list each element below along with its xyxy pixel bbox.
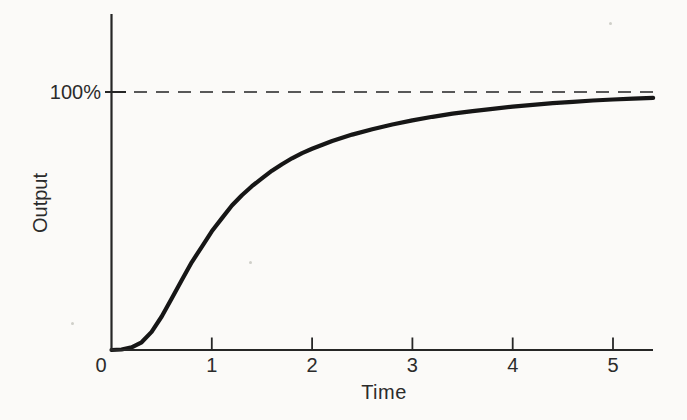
x-tick-label-0: 0 [95, 354, 106, 376]
chart-svg: 012345 100% Output Time [0, 0, 687, 420]
x-tick-label-3: 3 [407, 354, 418, 376]
x-tick-label-2: 2 [307, 354, 318, 376]
x-tick-label-1: 1 [206, 354, 217, 376]
scan-speck [249, 261, 252, 264]
scan-speck [71, 322, 74, 325]
x-ticks-group [212, 338, 613, 351]
scan-speck [609, 22, 612, 25]
x-tick-label-5: 5 [607, 354, 618, 376]
x-axis-title: Time [361, 381, 407, 403]
y-axis-title: Output [29, 173, 51, 233]
x-tick-label-4: 4 [507, 354, 518, 376]
x-tick-labels-group: 012345 [95, 354, 618, 376]
y-ref-label-100pct: 100% [50, 81, 101, 103]
response-curve [112, 98, 654, 350]
step-response-chart: 012345 100% Output Time [0, 0, 687, 420]
